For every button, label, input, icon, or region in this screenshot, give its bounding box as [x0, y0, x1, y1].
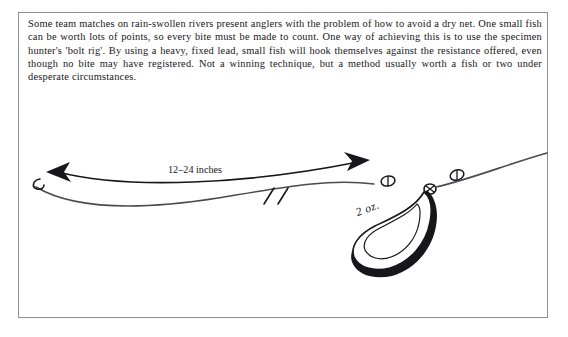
hooklength-label: 12–24 inches	[168, 164, 222, 175]
hooklength-line	[36, 182, 374, 206]
figure-page: Some team matches on rain-swollen rivers…	[0, 0, 568, 337]
bolt-rig-diagram	[18, 12, 548, 318]
bead-upper	[380, 175, 396, 188]
mainline	[436, 153, 547, 187]
